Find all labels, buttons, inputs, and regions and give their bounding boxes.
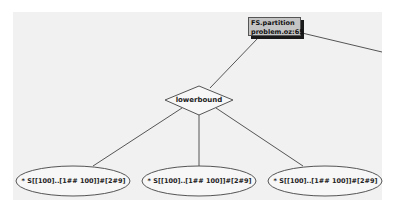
root-process-node[interactable]: FS.partition problem.oz:65 [248, 17, 301, 36]
edge-root-to-right [302, 33, 382, 52]
leaf-node-1[interactable]: * S[[100]..[1## 100]]#[2#9] [16, 176, 131, 186]
edge-choice-to-leaf-1 [93, 108, 182, 166]
leaf-node-3[interactable]: * S[[100]..[1## 100]]#[2#9] [268, 176, 383, 186]
leaf-node-2[interactable]: * S[[100]..[1## 100]]#[2#9] [142, 176, 257, 186]
choice-node-label[interactable]: lowerbound [165, 94, 233, 106]
edge-root-to-choice [210, 38, 258, 88]
root-node-location: problem.oz:65 [251, 28, 298, 37]
edge-choice-to-leaf-3 [216, 108, 303, 166]
root-node-name: FS.partition [251, 19, 298, 28]
